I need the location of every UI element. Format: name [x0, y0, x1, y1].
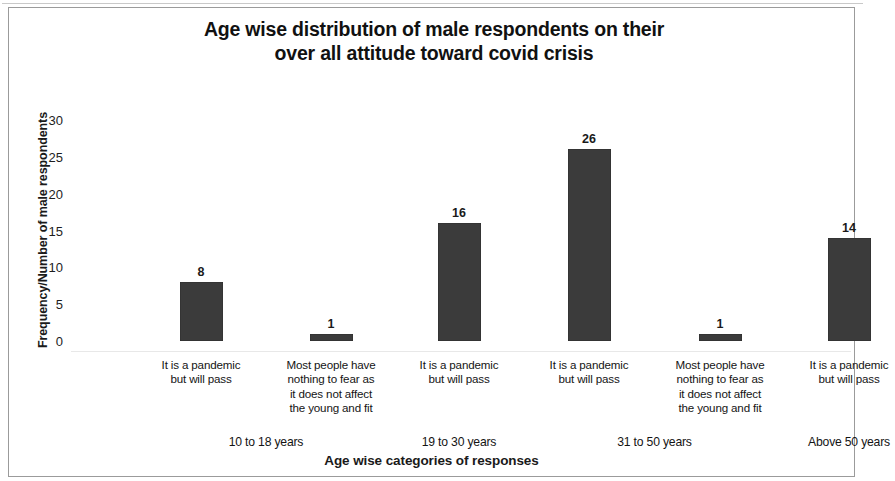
bar-value-label: 26	[582, 133, 596, 145]
bar-value-label: 16	[452, 207, 466, 219]
y-axis-tick-30: 30	[37, 113, 63, 128]
x-axis-title: Age wise categories of responses	[9, 453, 854, 468]
chart-title: Age wise distribution of male respondent…	[79, 17, 789, 65]
bar[interactable]	[699, 334, 742, 341]
bar-slot: 14	[784, 120, 895, 341]
y-axis-tick-25: 25	[37, 149, 63, 164]
age-group-label: 10 to 18 years	[136, 435, 396, 449]
y-axis-tick-15: 15	[37, 223, 63, 238]
plot-area: 051015202530 811626114	[71, 120, 851, 352]
bar[interactable]	[438, 223, 481, 341]
category-label: It is a pandemic but will pass	[783, 358, 895, 387]
y-axis-tick-10: 10	[37, 260, 63, 275]
y-axis-tick-20: 20	[37, 186, 63, 201]
age-group-label: Above 50 years	[784, 435, 895, 449]
bar-value-label: 8	[198, 266, 205, 278]
bar[interactable]	[180, 282, 223, 341]
age-group-label: 19 to 30 years	[394, 435, 524, 449]
bar-value-label: 14	[842, 222, 856, 234]
category-label: It is a pandemic but will pass	[523, 358, 655, 387]
bar[interactable]	[310, 334, 353, 341]
scanned-figure-frame: Age wise distribution of male respondent…	[8, 7, 855, 477]
category-label: It is a pandemic but will pass	[393, 358, 525, 387]
bar[interactable]	[828, 238, 871, 341]
bar-slot: 26	[524, 120, 654, 341]
bar[interactable]	[568, 149, 611, 341]
bar-value-label: 1	[328, 318, 335, 330]
bar-slot: 16	[394, 120, 524, 341]
bar-slot: 1	[655, 120, 785, 341]
bar-chart: Age wise distribution of male respondent…	[9, 8, 854, 476]
y-axis-tick-5: 5	[37, 297, 63, 312]
category-label: Most people have nothing to fear as it d…	[265, 358, 397, 416]
bar-slot: 1	[266, 120, 396, 341]
age-group-label: 31 to 50 years	[524, 435, 785, 449]
category-label: Most people have nothing to fear as it d…	[654, 358, 786, 416]
bar-value-label: 1	[717, 318, 724, 330]
axis-baseline	[71, 351, 851, 352]
y-axis-tick-0: 0	[37, 334, 63, 349]
bar-slot: 8	[136, 120, 266, 341]
category-label: It is a pandemic but will pass	[135, 358, 267, 387]
